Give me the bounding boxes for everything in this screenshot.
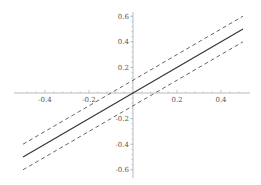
x-tick-label: 0.2 <box>171 96 182 104</box>
x-tick-label: -0.2 <box>82 96 96 104</box>
y-tick-label: -0.2 <box>116 115 130 123</box>
y-tick-label: 0.2 <box>118 64 129 72</box>
y-tick-label: -0.4 <box>116 141 130 149</box>
axes <box>14 12 250 178</box>
x-tick-label: -0.4 <box>38 96 52 104</box>
y-tick-label: 0.6 <box>118 13 130 21</box>
line-chart: -0.4-0.20.20.4-0.6-0.4-0.20.20.40.6 <box>0 0 261 185</box>
y-tick-label: 0.4 <box>118 38 130 46</box>
y-tick-label: -0.6 <box>116 166 130 174</box>
x-tick-label: 0.4 <box>215 96 227 104</box>
